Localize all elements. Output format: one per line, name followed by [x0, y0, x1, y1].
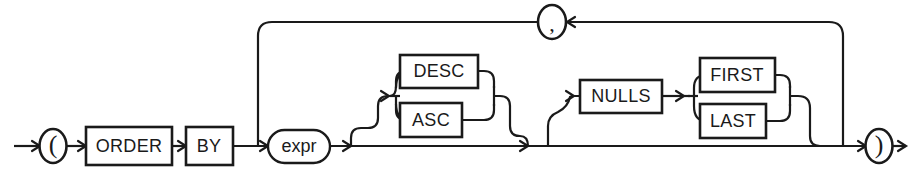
comma-loop-left-arm — [258, 22, 538, 146]
node-by-keyword[interactable]: BY — [186, 127, 233, 165]
branch-up-to-nulls — [548, 96, 580, 146]
order-by-clause-railroad-diagram: ( ORDER BY expr DESC ASC N — [0, 0, 914, 193]
by-label: BY — [197, 136, 222, 156]
node-last-keyword[interactable]: LAST — [700, 104, 766, 138]
comma-label: , — [549, 11, 555, 36]
first-exit-curve — [775, 75, 790, 88]
node-expr-nonterminal[interactable]: expr — [268, 130, 330, 163]
desc-exit-curve — [478, 71, 494, 88]
desc-label: DESC — [413, 61, 464, 81]
last-label: LAST — [710, 111, 756, 131]
close-paren-label: ) — [875, 130, 884, 159]
sort-merge-down-to-main — [494, 96, 528, 146]
nulls-label: NULLS — [591, 86, 651, 106]
node-first-keyword[interactable]: FIRST — [700, 58, 775, 92]
node-close-paren[interactable]: ) — [866, 129, 893, 163]
open-paren-label: ( — [49, 130, 58, 159]
node-comma-separator[interactable]: , — [538, 5, 566, 39]
node-open-paren[interactable]: ( — [40, 129, 67, 163]
asc-label: ASC — [412, 110, 450, 130]
node-asc-keyword[interactable]: ASC — [400, 103, 462, 137]
first-label: FIRST — [710, 65, 764, 85]
order-label: ORDER — [96, 136, 163, 156]
branch-up-to-sort-split — [351, 96, 396, 146]
node-desc-keyword[interactable]: DESC — [400, 55, 478, 88]
node-nulls-keyword[interactable]: NULLS — [580, 80, 662, 113]
railroad-diagram-canvas: ( ORDER BY expr DESC ASC N — [0, 0, 914, 193]
expr-label: expr — [281, 136, 316, 156]
last-exit-curve — [765, 104, 790, 121]
nulls-branch-down-to-main — [790, 96, 820, 146]
asc-exit-curve — [462, 104, 494, 120]
node-order-keyword[interactable]: ORDER — [86, 127, 172, 165]
